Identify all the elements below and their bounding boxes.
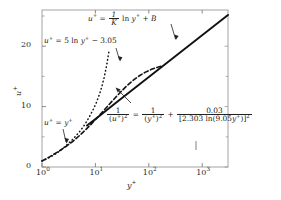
x-tick-label-100: 102 [143,169,157,177]
annotation-five-log: u+ = 5 ln y+ − 3.05 [44,37,117,44]
x-tick-label-10: 101 [89,169,103,177]
composite-term-3: 0.03 [2.303 ln(9.05y+)]2 [177,107,252,123]
y-tick-label-10: 10 [21,102,31,110]
x-axis-title: y+ [127,182,136,190]
x-tick-label-1000: 103 [196,169,210,177]
annotation-composite-correlation: 1 (u+)2 = 1 (y+)2 + 0.03 [2.303 ln(9.05y… [106,107,253,123]
y-tick-label-0: 0 [26,162,31,170]
composite-equals: = [133,110,139,119]
annotation-log-law: u+ = 1 K ln y+ + B [88,11,156,27]
composite-plus: + [167,110,173,119]
x-tick-label-1: 100 [36,169,50,177]
y-tick-label-20: 20 [21,41,31,49]
log-law-fraction: 1 K [109,11,119,27]
y-axis-title: u+ [14,86,23,96]
composite-term-1: 1 (u+)2 [107,107,129,123]
y-axis-title-symbol: u [14,91,23,96]
annotation-viscous-sublayer: u+ = y+ [44,119,73,126]
composite-term-2: 1 (y+)2 [142,107,164,123]
